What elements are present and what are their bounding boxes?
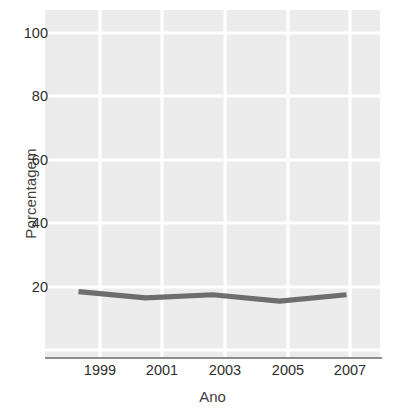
y-tick-label-100: 100 [4, 25, 48, 41]
y-tick-label-60: 60 [4, 152, 48, 168]
x-tick-label-2001: 2001 [130, 362, 194, 378]
vertical-gridlines [100, 10, 350, 358]
x-axis-baseline [45, 357, 382, 359]
plot-svg [45, 10, 380, 358]
y-axis-title: Porcentagem [22, 124, 39, 264]
x-tick-label-1999: 1999 [68, 362, 132, 378]
x-axis-title: Ano [45, 388, 380, 405]
y-tick-label-40: 40 [4, 215, 48, 231]
y-tick-label-20: 20 [4, 279, 48, 295]
x-tick-label-2003: 2003 [193, 362, 257, 378]
horizontal-gridlines [45, 33, 380, 350]
plot-area [45, 10, 380, 358]
data-series-line [79, 292, 347, 301]
x-tick-label-2007: 2007 [318, 362, 382, 378]
line-chart: Porcentagem 100 80 60 40 [0, 0, 401, 419]
x-tick-label-2005: 2005 [256, 362, 320, 378]
y-tick-label-80: 80 [4, 88, 48, 104]
